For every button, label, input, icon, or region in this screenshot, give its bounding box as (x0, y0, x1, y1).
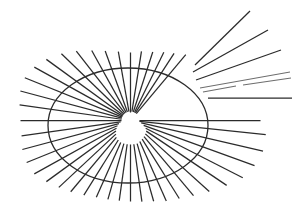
figure-canvas (0, 0, 295, 217)
starburst-figure (0, 0, 295, 217)
